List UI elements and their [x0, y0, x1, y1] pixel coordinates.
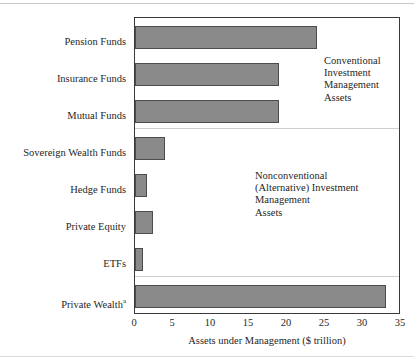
x-axis: 05101520253035 — [134, 314, 400, 332]
figure-bottom-rule — [0, 356, 414, 357]
x-tick-label-20: 20 — [281, 317, 292, 329]
bar-private-equity — [135, 211, 153, 234]
bar-sovereign-wealth-funds — [135, 137, 165, 160]
figure-container: Pension Funds Insurance Funds Mutual Fun… — [0, 0, 414, 364]
plot-area: Conventional Investment Management Asset… — [134, 17, 400, 314]
category-label-sovereign-wealth-funds: Sovereign Wealth Funds — [23, 147, 126, 159]
private-wealth-text: Private Wealth — [61, 299, 123, 310]
category-label-private-wealth: Private Wealtha — [61, 295, 126, 311]
annotation-nonconventional: Nonconventional (Alternative) Investment… — [255, 170, 359, 219]
bar-etfs — [135, 248, 143, 271]
group-divider-nonconventional — [135, 276, 399, 277]
category-label-hedge-funds: Hedge Funds — [70, 184, 126, 196]
annotation-conventional: Conventional Investment Management Asset… — [324, 55, 381, 104]
bar-mutual-funds — [135, 100, 279, 123]
x-tick-label-30: 30 — [357, 317, 368, 329]
x-tick-label-0: 0 — [131, 317, 136, 329]
category-label-private-equity: Private Equity — [66, 221, 126, 233]
private-wealth-footnote-marker: a — [123, 297, 126, 305]
group-divider-conventional — [135, 128, 399, 129]
category-label-etfs: ETFs — [103, 258, 126, 270]
bar-hedge-funds — [135, 174, 147, 197]
x-tick-label-35: 35 — [395, 317, 406, 329]
x-tick-label-25: 25 — [319, 317, 330, 329]
category-label-pension-funds: Pension Funds — [64, 36, 126, 48]
x-axis-title: Assets under Management ($ trillion) — [134, 335, 400, 346]
bar-pension-funds — [135, 26, 317, 49]
bar-private-wealth — [135, 285, 386, 308]
x-tick-label-10: 10 — [205, 317, 216, 329]
x-tick-label-15: 15 — [243, 317, 254, 329]
figure-top-rule — [0, 3, 414, 4]
x-tick-label-5: 5 — [169, 317, 174, 329]
category-axis-labels: Pension Funds Insurance Funds Mutual Fun… — [0, 17, 130, 314]
bar-insurance-funds — [135, 63, 279, 86]
category-label-mutual-funds: Mutual Funds — [67, 110, 126, 122]
category-label-insurance-funds: Insurance Funds — [57, 73, 126, 85]
